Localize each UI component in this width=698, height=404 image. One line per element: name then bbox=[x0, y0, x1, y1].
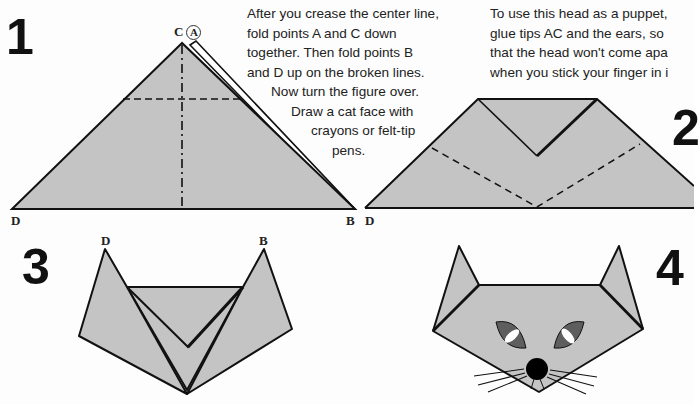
step-number-4: 4 bbox=[656, 243, 682, 293]
step1-label-a-circled: A bbox=[186, 25, 201, 40]
step4-diagram bbox=[433, 246, 643, 394]
step-number-2: 2 bbox=[672, 103, 698, 153]
step3-label-b: B bbox=[259, 234, 268, 247]
step3-label-d: D bbox=[101, 234, 110, 247]
step2-label-d: D bbox=[365, 214, 374, 227]
step-number-1: 1 bbox=[6, 12, 32, 62]
fold-instructions: After you crease the center line, fold p… bbox=[247, 4, 439, 160]
step-number-3: 3 bbox=[22, 242, 48, 292]
step1-label-c: CA bbox=[174, 25, 201, 40]
step1-label-b: B bbox=[346, 214, 355, 227]
step3-diagram bbox=[79, 249, 292, 394]
step1-label-d: D bbox=[11, 214, 20, 227]
puppet-instructions: To use this head as a puppet, glue tips … bbox=[490, 4, 694, 82]
cat-nose bbox=[526, 358, 548, 380]
